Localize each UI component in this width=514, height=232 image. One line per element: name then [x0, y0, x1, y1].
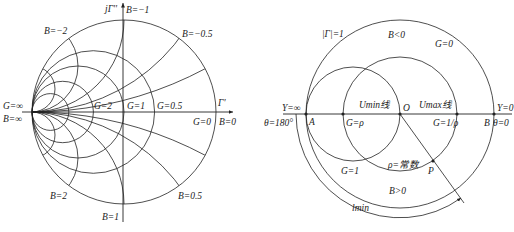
label-y-infinite: Y=∞: [282, 103, 301, 113]
point-g-rho-dot: [341, 112, 344, 115]
label-theta-180: θ=180°: [264, 118, 293, 128]
right-smith-chart: |Γ|=1 B<0 G=0 Y=∞ θ=180° A G=ρ Umin线 O U…: [264, 20, 514, 218]
label-b-positive: B>0: [389, 186, 406, 196]
label-point-a: A: [308, 117, 315, 127]
label-b0.5: B=0.5: [178, 191, 202, 201]
label-origin: O: [403, 103, 410, 113]
label-b-neg0.5: B=−0.5: [182, 29, 213, 39]
point-g-inv-rho-dot: [455, 112, 458, 115]
label-g2: G=2: [94, 101, 112, 111]
point-p-dot: [431, 159, 434, 162]
b-circle-neg0.25: [0, 0, 400, 112]
label-u-max-line: Umax线: [419, 100, 453, 110]
label-theta-0: θ=0: [493, 118, 509, 128]
diagram-canvas: jΓ'' Γ' B=−1 B=−2 B=−0.5 G=∞ B=∞ G=2 G=1…: [0, 0, 514, 232]
label-g-zero: G=0: [435, 39, 453, 49]
label-y-zero: Y=0: [497, 103, 514, 113]
label-g-rho: G=ρ: [346, 118, 364, 128]
b-circle-neg0.5: [0, 0, 216, 112]
label-g-one: G=1: [341, 166, 359, 176]
point-o-dot: [398, 112, 401, 115]
b-circle-neg1: [0, 0, 124, 112]
label-g0.5: G=0.5: [157, 101, 182, 111]
l-min-arc: [296, 114, 461, 218]
label-l-min: lmin: [352, 203, 369, 213]
label-b-inf: B=∞: [3, 114, 22, 124]
label-b-neg2: B=−2: [44, 26, 68, 36]
real-axis-label: Γ': [217, 98, 226, 108]
label-b-neg1: B=−1: [126, 5, 149, 15]
label-g0: G=0: [193, 117, 211, 127]
point-a-dot: [304, 112, 307, 115]
label-rho-const: ρ=常数: [387, 160, 420, 170]
label-b1: B=1: [102, 212, 119, 222]
label-b2: B=2: [50, 191, 67, 201]
point-b-dot: [492, 112, 495, 115]
label-point-p: P: [427, 166, 434, 176]
label-gamma-unit: |Γ|=1: [322, 29, 344, 39]
label-point-b: B: [484, 118, 490, 128]
label-g1: G=1: [127, 101, 145, 111]
label-u-min-line: Umin线: [359, 100, 391, 110]
label-g-inf: G=∞: [3, 101, 23, 111]
label-b-negative: B<0: [388, 30, 405, 40]
b-circle-0.25: [0, 112, 400, 232]
label-b0: B=0: [219, 117, 236, 127]
label-g-inv-rho: G=1/ρ: [433, 118, 459, 128]
imag-axis-label: jΓ'': [103, 4, 118, 14]
